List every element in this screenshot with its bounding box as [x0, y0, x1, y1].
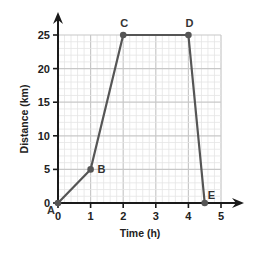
data-point-a: [55, 200, 62, 207]
y-axis-title: Distance (km): [18, 85, 30, 154]
data-point-b: [87, 166, 94, 173]
x-tick-label: 3: [153, 210, 159, 222]
point-label-d: D: [185, 17, 193, 29]
point-label-a: A: [47, 204, 55, 216]
x-tick-label: 2: [120, 210, 126, 222]
point-label-c: C: [120, 17, 128, 29]
data-point-c: [120, 32, 127, 39]
y-tick-label: 20: [38, 63, 50, 75]
x-tick-label: 4: [185, 210, 192, 222]
x-tick-label: 5: [218, 210, 224, 222]
point-label-e: E: [208, 189, 215, 201]
data-series: ABCDE: [47, 17, 215, 216]
x-tick-label: 0: [55, 210, 61, 222]
x-tick-label: 1: [88, 210, 94, 222]
x-axis-title: Time (h): [120, 227, 161, 239]
y-tick-label: 5: [44, 163, 50, 175]
y-tick-label: 10: [38, 130, 50, 142]
distance-time-chart: 0123450510152025 ABCDE Time (h) Distance…: [0, 0, 257, 256]
y-tick-label: 15: [38, 96, 50, 108]
data-point-d: [185, 32, 192, 39]
series-line: [58, 35, 205, 203]
point-label-b: B: [98, 163, 106, 175]
y-tick-label: 25: [38, 29, 50, 41]
